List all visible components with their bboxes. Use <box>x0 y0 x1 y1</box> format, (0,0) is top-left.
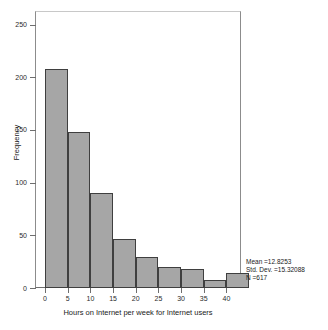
x-axis-tick <box>158 288 159 293</box>
y-axis-tick <box>30 183 36 184</box>
y-axis-title: Frequency <box>12 103 21 183</box>
x-axis-tick <box>90 288 91 293</box>
x-axis-tick-label: 20 <box>125 295 147 303</box>
x-axis-tick-label: 40 <box>215 295 237 303</box>
x-axis-tick-label: 30 <box>170 295 192 303</box>
histogram-bar <box>204 280 227 288</box>
y-axis-tick <box>30 77 36 78</box>
x-axis-tick <box>226 288 227 293</box>
x-axis-tick-label: 35 <box>193 295 215 303</box>
x-axis-tick <box>68 288 69 293</box>
x-axis-tick-label: 0 <box>34 295 56 303</box>
x-axis-tick-label: 10 <box>79 295 101 303</box>
y-axis-tick-label: 250 <box>15 21 27 28</box>
y-axis-tick-label: 200 <box>15 74 27 81</box>
stats-mean: Mean =12.8253 <box>246 258 305 266</box>
histogram-bar <box>45 69 68 288</box>
x-axis-title: Hours on Internet per week for Internet … <box>0 308 276 317</box>
x-axis-tick <box>181 288 182 293</box>
x-axis-tick-label: 15 <box>102 295 124 303</box>
histogram-bar <box>136 257 159 288</box>
histogram-chart: 050100150200250 0510152025303540 Frequen… <box>0 0 328 330</box>
x-axis-tick <box>113 288 114 293</box>
y-axis-tick <box>30 288 36 289</box>
x-axis-tick <box>136 288 137 293</box>
histogram-bar <box>181 269 204 288</box>
y-axis-tick <box>30 130 36 131</box>
stats-annotation: Mean =12.8253 Std. Dev. =15.32088 N =617 <box>246 258 305 283</box>
histogram-bar <box>90 193 113 288</box>
y-axis-tick <box>30 25 36 26</box>
histogram-bar <box>158 267 181 288</box>
bars-layer <box>36 12 240 288</box>
x-axis-tick <box>204 288 205 293</box>
y-axis-tick <box>30 235 36 236</box>
y-axis-tick-label: 50 <box>19 232 27 239</box>
histogram-bar <box>113 239 136 289</box>
y-axis-tick-label: 0 <box>23 285 27 292</box>
stats-n: N =617 <box>246 274 305 282</box>
x-axis-tick-label: 5 <box>57 295 79 303</box>
stats-std-dev: Std. Dev. =15.32088 <box>246 266 305 274</box>
x-axis-tick-label: 25 <box>147 295 169 303</box>
x-axis-tick <box>45 288 46 293</box>
histogram-bar <box>68 132 91 288</box>
